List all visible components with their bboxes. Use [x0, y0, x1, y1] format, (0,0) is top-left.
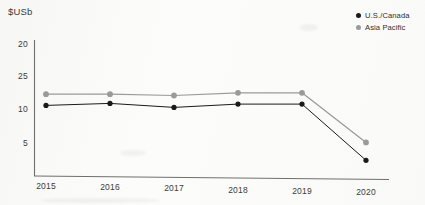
scan-artifact [40, 198, 160, 203]
legend-label-asia-pacific: Asia Pacific [365, 23, 405, 32]
scan-artifact [300, 24, 318, 31]
data-point[interactable]: Asia Pacific 2020: 5.5 [363, 140, 369, 146]
legend-item-us-canada[interactable]: U.S./Canada [356, 10, 410, 20]
data-point[interactable]: U.S./Canada 2015: 10.6 [43, 103, 48, 108]
data-point[interactable]: Asia Pacific 2018: 12.8 [235, 90, 241, 96]
data-point[interactable]: U.S./Canada 2020: 2.8 [363, 158, 368, 163]
x-axis-line [34, 176, 389, 180]
legend-marker-asia-pacific [356, 25, 361, 30]
scan-artifact [120, 150, 146, 156]
data-point[interactable]: U.S./Canada 2018: 11.1 [235, 102, 240, 107]
line-chart: $USb 20 25 10 5 2015 2016 2017 2018 2019… [0, 0, 425, 205]
data-point[interactable]: U.S./Canada 2017: 10.5 [171, 105, 176, 110]
series-line-us-canada: U.S./Canada 2015: 10.6U.S./Canada 2016: … [43, 101, 368, 163]
series-line-asia-pacific: Asia Pacific 2015: 12.3Asia Pacific 2016… [43, 90, 369, 145]
data-point[interactable]: Asia Pacific 2019: 12.9 [299, 90, 305, 96]
data-point[interactable]: U.S./Canada 2016: 11 [107, 101, 112, 106]
chart-legend: U.S./Canada Asia Pacific [356, 10, 410, 32]
legend-marker-us-canada [356, 13, 361, 18]
data-point[interactable]: Asia Pacific 2017: 12.3 [171, 93, 177, 99]
legend-item-asia-pacific[interactable]: Asia Pacific [356, 22, 410, 32]
data-point[interactable]: U.S./Canada 2019: 11.2 [299, 102, 304, 107]
data-point[interactable]: Asia Pacific 2016: 12.4 [107, 91, 113, 97]
series-path [46, 103, 366, 160]
data-point[interactable]: Asia Pacific 2015: 12.3 [43, 91, 49, 97]
legend-label-us-canada: U.S./Canada [365, 11, 410, 20]
